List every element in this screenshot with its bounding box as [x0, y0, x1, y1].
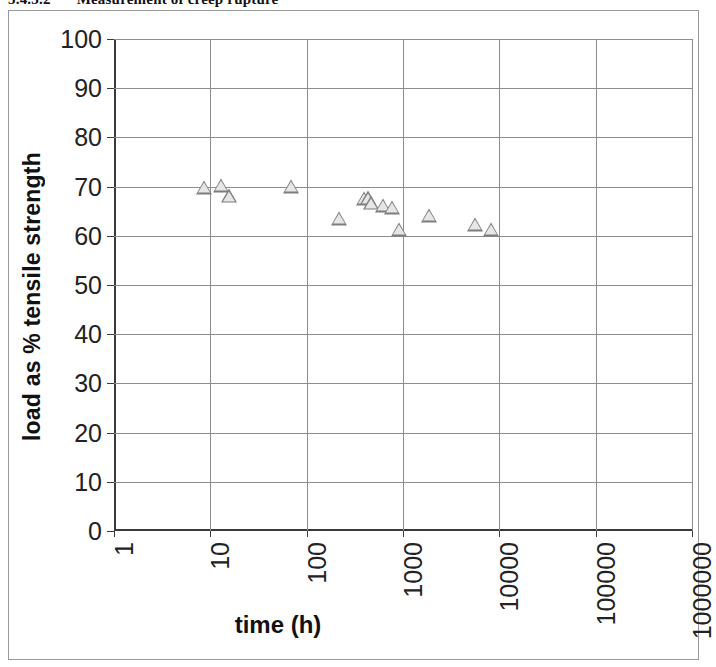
chart-figure: load as % tensile strength 0102030405060… — [8, 10, 699, 660]
y-axis-tick-label: 70 — [74, 174, 102, 199]
x-axis-tick — [596, 531, 597, 537]
x-axis-tick-label: 1 — [112, 542, 137, 556]
y-axis-tick — [107, 236, 114, 237]
x-axis-tick-label: 10 — [208, 542, 233, 570]
x-axis-tick — [403, 531, 404, 537]
y-axis-tick-label: 60 — [74, 223, 102, 248]
x-axis-tick-label: 100 — [304, 542, 329, 584]
plot-inner: 0102030405060708090100110100100010000100… — [114, 39, 692, 531]
y-axis-tick-label: 80 — [74, 125, 102, 150]
x-axis-tick — [307, 531, 308, 537]
section-heading: Measurement of creep rupture — [77, 0, 279, 7]
y-axis-tick — [107, 285, 114, 286]
x-axis-title: time (h) — [114, 611, 692, 639]
data-point-marker — [196, 180, 212, 194]
y-axis-tick — [107, 383, 114, 384]
data-point-marker — [467, 218, 483, 232]
y-axis-tick-label: 40 — [74, 322, 102, 347]
y-axis-tick-label: 10 — [74, 469, 102, 494]
x-axis-tick — [692, 531, 693, 537]
gridline-vertical — [596, 39, 597, 531]
data-point-marker — [221, 189, 237, 203]
x-axis-tick — [499, 531, 500, 537]
y-axis-title: load as % tensile strength — [19, 51, 46, 543]
y-axis-tick-label: 30 — [74, 371, 102, 396]
gridline-vertical — [692, 39, 693, 531]
x-axis-tick-label: 10000 — [497, 542, 522, 612]
y-axis-tick-label: 50 — [74, 273, 102, 298]
y-axis-tick-label: 20 — [74, 420, 102, 445]
x-axis-tick — [210, 531, 211, 537]
y-axis-tick-label: 90 — [74, 76, 102, 101]
y-axis-tick — [107, 137, 114, 138]
plot-area: 0102030405060708090100110100100010000100… — [114, 39, 692, 531]
y-axis-tick — [107, 88, 114, 89]
y-axis-tick — [107, 482, 114, 483]
gridline-vertical — [210, 39, 211, 531]
section-number: 5.4.3.2 — [8, 0, 51, 7]
data-point-marker — [384, 200, 400, 214]
document-running-head: 5.4.3.2Measurement of creep rupture — [8, 0, 698, 7]
y-axis-tick — [107, 334, 114, 335]
y-axis-tick-label: 0 — [88, 519, 102, 544]
data-point-marker — [421, 209, 437, 223]
x-axis-tick — [114, 531, 115, 537]
y-axis-tick — [107, 187, 114, 188]
y-axis-tick — [107, 39, 114, 40]
x-axis-tick-label: 1000000 — [690, 542, 715, 639]
y-axis-tick — [107, 531, 114, 532]
x-axis-tick-label: 1000 — [401, 542, 426, 598]
gridline-vertical — [403, 39, 404, 531]
data-point-marker — [331, 212, 347, 226]
y-axis-tick-label: 100 — [60, 27, 102, 52]
data-point-marker — [391, 222, 407, 236]
data-point-marker — [483, 222, 499, 236]
gridline-vertical — [307, 39, 308, 531]
y-axis-tick — [107, 433, 114, 434]
data-point-marker — [283, 180, 299, 194]
gridline-vertical — [499, 39, 500, 531]
